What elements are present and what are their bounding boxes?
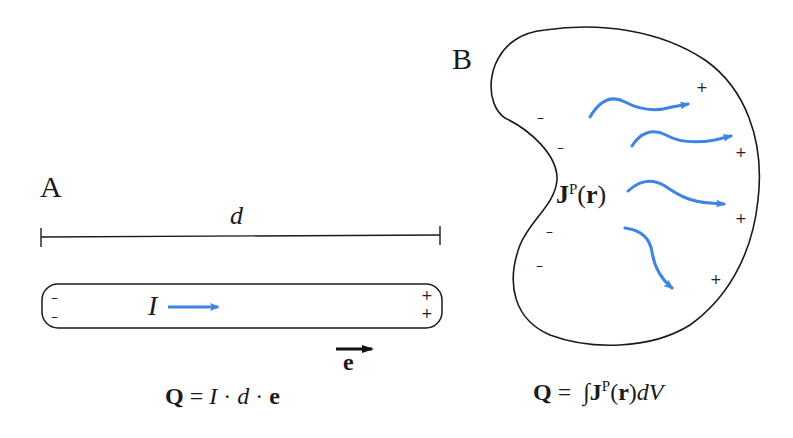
wavy-arrow-icon <box>625 228 672 288</box>
positive-charge: + <box>696 80 708 94</box>
integral-icon: ∫ <box>583 379 590 405</box>
positive-charge: + <box>421 288 433 302</box>
negative-charge: – <box>546 224 553 238</box>
field-paren-open: ( <box>577 180 586 209</box>
length-label: d <box>230 203 243 229</box>
wire-tube <box>42 284 442 328</box>
wavy-arrow-icon <box>628 181 724 204</box>
panel-b-label: B <box>452 44 472 74</box>
field-symbol: J <box>556 180 569 209</box>
eq-b-volume-element: dV <box>637 379 664 405</box>
positive-charge: + <box>735 145 747 159</box>
current-label: I <box>148 292 157 320</box>
polarized-body-outline <box>491 27 759 345</box>
negative-charge: – <box>557 140 564 154</box>
field-paren-close: ) <box>598 180 607 209</box>
polarization-current-arrows <box>590 99 731 288</box>
positive-charge: + <box>735 211 747 225</box>
dipole-equation-b: Q = ∫JP(r)dV <box>533 373 663 405</box>
negative-charge: – <box>51 309 58 323</box>
eq-a-dot: · <box>217 383 237 409</box>
polarization-field-label: JP(r) <box>556 176 606 208</box>
eq-b-position-var: r <box>618 379 629 405</box>
wavy-arrow-icon <box>590 99 688 117</box>
eq-a-length: d <box>237 383 249 409</box>
diagram-canvas <box>0 0 793 438</box>
eq-b-superscript: P <box>602 378 610 394</box>
dipole-equation-a: Q = I · d · e <box>165 383 280 409</box>
eq-b-lhs: Q <box>533 379 552 405</box>
eq-b-field: J <box>590 379 602 405</box>
negative-charge: – <box>537 110 544 124</box>
panel-a-label: A <box>40 172 62 202</box>
unit-vector-label: e <box>343 350 354 374</box>
wavy-arrow-icon <box>632 132 731 146</box>
eq-a-dot: · <box>249 383 269 409</box>
eq-b-equals: = <box>552 379 584 405</box>
positive-charge: + <box>710 272 722 286</box>
eq-a-lhs: Q <box>165 383 184 409</box>
positive-charge: + <box>421 306 433 320</box>
negative-charge: – <box>51 290 58 304</box>
field-position-var: r <box>586 180 598 209</box>
eq-a-unit-vector: e <box>269 383 280 409</box>
eq-b-paren-close: ) <box>629 379 637 405</box>
eq-b-paren-open: ( <box>610 379 618 405</box>
eq-a-equals: = <box>184 383 210 409</box>
negative-charge: – <box>536 258 543 272</box>
